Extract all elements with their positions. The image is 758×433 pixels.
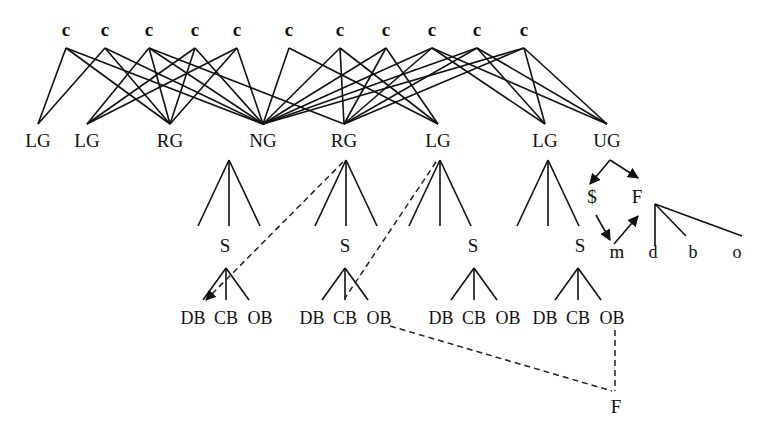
subtree-leg-left: [198, 160, 229, 226]
leaf-db: DB: [299, 308, 324, 328]
leaf-leg-right: [345, 268, 368, 300]
leaf-leg-right: [474, 268, 497, 300]
middle-node-lg-2: LG: [74, 130, 100, 151]
top-node-c9: c: [428, 19, 436, 40]
dashed-ob-to-f: [390, 326, 612, 391]
top-node-c1: c: [62, 19, 70, 40]
leaf-leg-right: [226, 268, 249, 300]
subtree-1: SDBCBOB: [180, 160, 272, 328]
subtree-s-node: S: [468, 235, 479, 256]
cycle-node-m: m: [610, 241, 625, 262]
leaf-cb: CB: [333, 308, 357, 328]
top-node-c2: c: [101, 19, 109, 40]
leaf-ob: OB: [599, 308, 624, 328]
cycle-node-dollar: $: [587, 186, 597, 207]
subtree-s-node: S: [340, 235, 351, 256]
edge-c9-to-ng4: [263, 48, 432, 124]
middle-node-lg-6: LG: [425, 130, 451, 151]
f-subtree: dbo: [649, 204, 743, 262]
top-node-c6: c: [285, 19, 293, 40]
edge-c9-to-lg7: [432, 48, 545, 124]
f-tree-leg-3: [655, 204, 742, 236]
subtree-leg-left: [409, 160, 440, 226]
subtree-3: SDBCBOB: [409, 160, 521, 328]
middle-node-rg-5: RG: [331, 130, 358, 151]
subtree-leg-right: [229, 160, 260, 226]
bottom-node-f: F: [611, 396, 622, 417]
leaf-ob: OB: [495, 308, 520, 328]
top-to-middle-edges: [38, 48, 607, 124]
leaf-leg-left: [555, 268, 578, 300]
f-leaf-o: o: [733, 242, 742, 262]
f-tree-leg-2: [655, 204, 686, 236]
middle-node-row: LGLGRGNGRGLGLGUG: [25, 130, 621, 151]
dashed-lg-to-cb: [345, 162, 436, 298]
subtree-s-node: S: [220, 235, 231, 256]
leaf-db: DB: [180, 308, 205, 328]
leaf-cb: CB: [566, 308, 590, 328]
f-leaf-d: d: [649, 242, 658, 262]
bottom-node-group: F: [611, 396, 622, 417]
edge-c2-to-ng4: [105, 48, 263, 124]
edge-c2-to-lg1: [38, 48, 105, 124]
top-node-c8: c: [382, 19, 390, 40]
leaf-leg-left: [451, 268, 474, 300]
leaf-db: DB: [532, 308, 557, 328]
leaf-cb: CB: [462, 308, 486, 328]
cycle-node-f: F: [632, 186, 643, 207]
middle-node-rg-3: RG: [157, 130, 184, 151]
edge-c5-to-lg2: [87, 48, 237, 124]
subtree-leg-left: [517, 160, 548, 226]
top-node-c7: c: [336, 19, 344, 40]
arrow-ug-to-dollar: [590, 160, 610, 184]
subtree-leg-right: [548, 160, 579, 226]
subtree-leg-left: [315, 160, 346, 226]
dashed-links: [206, 162, 615, 391]
subtree-leg-right: [440, 160, 471, 226]
subtree-2: SDBCBOB: [299, 160, 391, 328]
leaf-ob: OB: [366, 308, 391, 328]
arrow-m-to-f: [614, 216, 638, 244]
dashed-rg-to-db: [206, 162, 343, 300]
edge-c8-to-ng4: [263, 48, 386, 124]
top-node-c3: c: [145, 19, 153, 40]
subtree-4: SDBCBOB: [517, 160, 625, 328]
subtree-leg-right: [346, 160, 377, 226]
top-node-c4: c: [191, 19, 199, 40]
edge-c1-to-lg1: [38, 48, 66, 124]
subtree-s-node: S: [575, 235, 586, 256]
top-node-c10: c: [473, 19, 481, 40]
leaf-cb: CB: [214, 308, 238, 328]
middle-node-lg-1: LG: [25, 130, 51, 151]
top-node-c11: c: [520, 19, 528, 40]
syntax-tree-diagram: ccccccccccc LGLGRGNGRGLGLGUG SDBCBOBSDBC…: [0, 0, 758, 433]
edge-c11-to-ug8: [524, 48, 607, 124]
edge-c7-to-rg5: [340, 48, 344, 124]
edge-c6-to-ng4: [263, 48, 289, 124]
top-node-row: ccccccccccc: [62, 19, 528, 40]
top-node-c5: c: [233, 19, 241, 40]
middle-node-ug-8: UG: [593, 130, 621, 151]
s-subtrees: SDBCBOBSDBCBOBSDBCBOBSDBCBOB: [180, 160, 624, 328]
arrow-dollar-to-m: [596, 215, 610, 240]
leaf-leg-left: [322, 268, 345, 300]
middle-node-lg-7: LG: [532, 130, 558, 151]
edge-c4-to-rg3: [170, 48, 195, 124]
leaf-ob: OB: [247, 308, 272, 328]
f-leaf-b: b: [689, 242, 698, 262]
arrow-ug-to-f: [610, 160, 638, 178]
edge-c4-to-lg2: [87, 48, 195, 124]
middle-node-ng-4: NG: [249, 130, 277, 151]
ug-cycle: $Fm: [587, 160, 642, 262]
leaf-db: DB: [428, 308, 453, 328]
leaf-leg-right: [578, 268, 601, 300]
edge-c9-to-rg5: [344, 48, 432, 124]
